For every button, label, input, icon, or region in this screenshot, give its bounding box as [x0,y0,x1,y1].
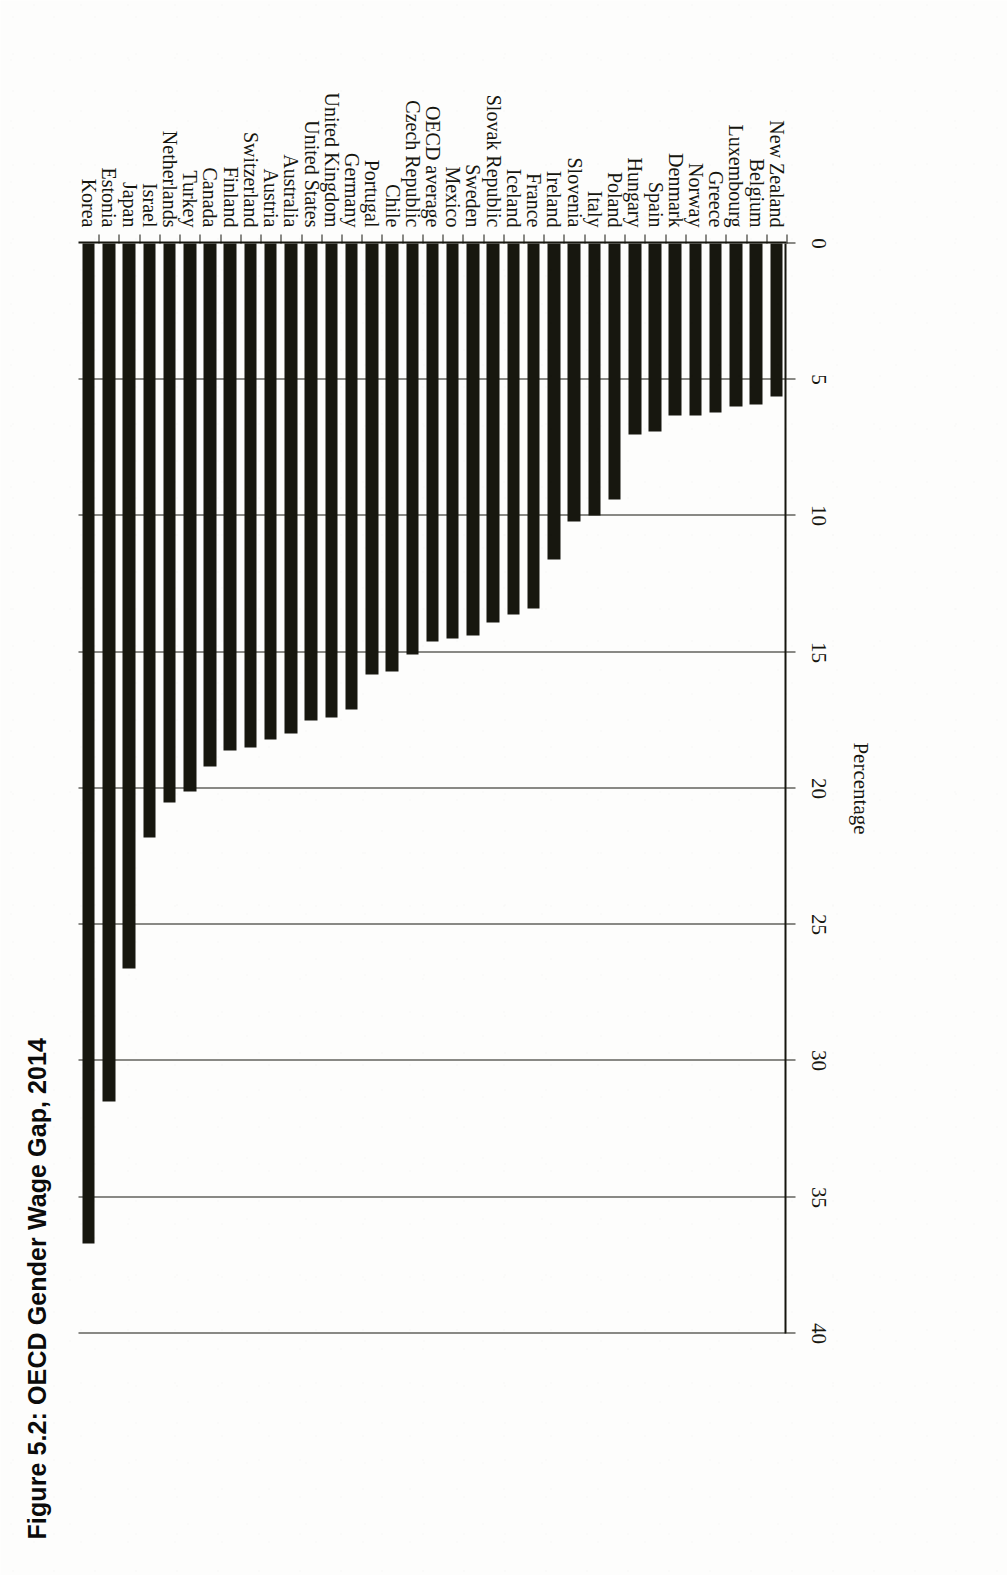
category-tick [442,234,443,243]
bar [729,243,742,407]
value-tick-35 [786,1196,795,1197]
value-tick-label-20: 20 [805,778,830,799]
category-tick [685,234,686,243]
category-tick [523,234,524,243]
category-tick [321,234,322,243]
bar [426,243,439,641]
bar [668,243,681,415]
bar [304,243,317,720]
gridline-35 [78,1196,786,1197]
category-tick [118,234,119,243]
bar [749,243,762,404]
value-tick-20 [786,787,795,788]
value-tick-30 [786,1060,795,1061]
bar [183,243,196,791]
bar [244,243,257,747]
category-tick [98,234,99,243]
category-tick [766,234,767,243]
value-tick-15 [786,651,795,652]
gridline-25 [78,923,786,924]
bar [82,243,95,1243]
bar [466,243,479,635]
value-tick-5 [786,378,795,379]
bar [709,243,722,412]
bar [567,243,580,521]
category-tick [361,234,362,243]
bar [223,243,236,750]
category-tick [584,234,585,243]
bar [365,243,378,674]
category-tick [644,234,645,243]
category-tick [604,234,605,243]
bar [446,243,459,638]
bar [143,243,156,837]
value-tick-label-25: 25 [805,914,830,935]
bar [648,243,661,431]
category-tick [381,234,382,243]
bar [325,243,338,717]
value-tick-label-35: 35 [805,1186,830,1207]
gridline-40 [78,1332,786,1333]
bar [102,243,115,1101]
bar [406,243,419,654]
bar [527,243,540,608]
category-tick [665,234,666,243]
category-tick [422,234,423,243]
bar [628,243,641,434]
bar [507,243,520,614]
category-tick [705,234,706,243]
bar [608,243,621,499]
gridline-30 [78,1060,786,1061]
bar-chart: Percentage 0510152025303540KoreaEstoniaJ… [78,125,878,1425]
value-tick-40 [786,1332,795,1333]
value-tick-label-5: 5 [805,374,830,385]
value-tick-label-40: 40 [805,1323,830,1344]
category-tick [462,234,463,243]
figure-title: Figure 5.2: OECD Gender Wage Gap, 2014 [22,1037,51,1539]
category-tick [563,234,564,243]
category-tick [240,234,241,243]
category-tick [159,234,160,243]
value-tick-label-15: 15 [805,641,830,662]
category-tick [341,234,342,243]
bar [264,243,277,739]
category-tick [220,234,221,243]
bar [689,243,702,415]
category-tick [746,234,747,243]
value-tick-10 [786,515,795,516]
bar [486,243,499,622]
category-label: New Zealand [762,120,790,227]
bar [203,243,216,766]
bar [588,243,601,516]
value-axis-title: Percentage [847,742,872,834]
bar [770,243,783,396]
category-tick [786,234,787,243]
bar [385,243,398,671]
value-tick-label-30: 30 [805,1050,830,1071]
bar [547,243,560,559]
bar [345,243,358,709]
bar [122,243,135,968]
category-tick [483,234,484,243]
category-tick [624,234,625,243]
category-tick [280,234,281,243]
category-tick [543,234,544,243]
scanned-page: Figure 5.2: OECD Gender Wage Gap, 2014 P… [0,0,1007,1575]
value-tick-25 [786,923,795,924]
category-tick [199,234,200,243]
category-tick [402,234,403,243]
category-tick [139,234,140,243]
plot-area: Percentage 0510152025303540KoreaEstoniaJ… [78,243,786,1333]
value-tick-label-10: 10 [805,505,830,526]
bar [284,243,297,734]
bar [163,243,176,802]
category-tick [503,234,504,243]
category-tick [260,234,261,243]
category-tick [725,234,726,243]
category-tick [179,234,180,243]
category-tick [301,234,302,243]
value-tick-label-0: 0 [805,238,830,249]
